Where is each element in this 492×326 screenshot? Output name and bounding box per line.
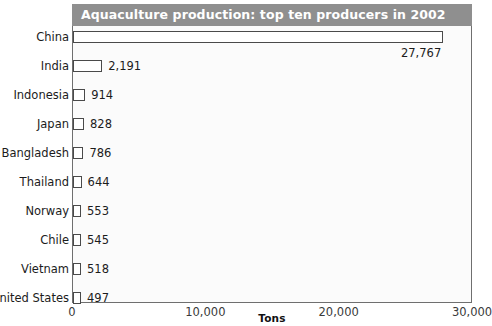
bar [73,89,85,101]
category-label: China [0,31,69,44]
bar-row: Bangladesh786 [73,147,471,176]
bar-row: Indonesia914 [73,89,471,118]
bar-value-label: 497 [87,292,109,305]
bar [73,176,82,188]
bar-value-label: 786 [89,147,111,160]
category-label: Norway [0,205,69,218]
bar [73,292,81,304]
category-label: United States [0,292,69,305]
category-label: Thailand [0,176,69,189]
plot-area: China27,767India2,191Indonesia914Japan82… [72,26,472,303]
category-label: Indonesia [0,89,69,102]
bar-row: Chile545 [73,234,471,263]
bar-value-label: 553 [87,205,109,218]
bar [73,205,81,217]
chart-title: Aquaculture production: top ten producer… [72,4,472,26]
bar-row: Norway553 [73,205,471,234]
bar-value-label: 545 [87,234,109,247]
bar-rows: China27,767India2,191Indonesia914Japan82… [73,26,471,302]
bar-value-label: 2,191 [108,60,141,73]
category-label: India [0,60,69,73]
category-label: Bangladesh [0,147,69,160]
bar [73,60,102,72]
bar [73,31,443,43]
bar-value-label: 644 [88,176,110,189]
bar-row: India2,191 [73,60,471,89]
bar [73,147,83,159]
bar-value-label: 914 [91,89,113,102]
bar-value-label: 828 [90,118,112,131]
bar [73,118,84,130]
bar [73,263,81,275]
bar-row: Vietnam518 [73,263,471,292]
x-axis-title: Tons [72,312,472,324]
bar-row: Thailand644 [73,176,471,205]
bar-row: China27,767 [73,31,471,60]
bar [73,234,81,246]
category-label: Japan [0,118,69,131]
bar-value-label: 518 [87,263,109,276]
category-label: Vietnam [0,263,69,276]
bar-row: Japan828 [73,118,471,147]
category-label: Chile [0,234,69,247]
